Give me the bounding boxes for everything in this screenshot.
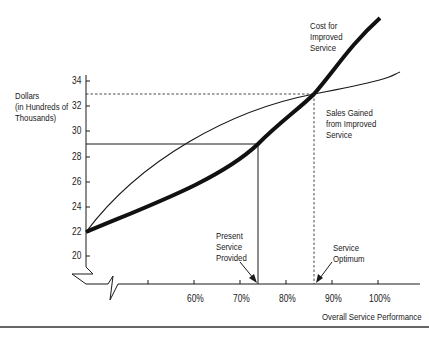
service-optimum-label: Service Optimum	[333, 242, 365, 264]
ytick-28: 28	[72, 151, 81, 162]
y-axis-label: Dollars (in Hundreds of Thousands)	[15, 90, 68, 123]
sales-curve	[86, 72, 400, 232]
chart-canvas	[0, 0, 429, 339]
ytick-22: 22	[72, 226, 81, 237]
ytick-34: 34	[72, 75, 81, 86]
xtick-60: 60%	[187, 293, 204, 304]
ytick-24: 24	[72, 201, 81, 212]
x-axis-label: Overall Service Performance	[322, 311, 422, 322]
xtick-90: 90%	[325, 293, 342, 304]
xtick-80: 80%	[279, 293, 296, 304]
ytick-26: 26	[72, 176, 81, 187]
ytick-20: 20	[72, 250, 81, 261]
ytick-32: 32	[72, 100, 81, 111]
present-service-label: Present Service Provided	[216, 230, 247, 263]
arrow-optimum	[316, 262, 332, 283]
arrow-present	[240, 262, 257, 283]
xtick-100: 100%	[369, 293, 390, 304]
ytick-30: 30	[72, 125, 81, 136]
x-ticks	[148, 280, 378, 284]
cost-curve-label: Cost for Improved Service	[310, 20, 342, 53]
xtick-70: 70%	[233, 293, 250, 304]
sales-curve-label: Sales Gained from Improved Service	[326, 107, 376, 140]
